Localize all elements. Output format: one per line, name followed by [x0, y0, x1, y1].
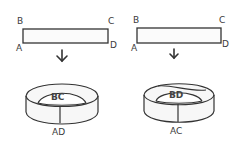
right-label-a: A — [131, 44, 137, 53]
right-label-c: C — [219, 16, 225, 25]
right-ring-outer-label: AC — [170, 127, 182, 136]
right-label-b: B — [133, 16, 139, 25]
left-ring-outer-label: AD — [52, 128, 65, 137]
left-strip — [23, 29, 108, 43]
left-down-arrow-icon — [57, 50, 67, 61]
right-down-arrow-icon — [170, 49, 178, 58]
left-label-a: A — [16, 44, 22, 53]
left-ring-inner-label: BC — [51, 93, 64, 102]
right-ring-inner-label: BD — [169, 91, 183, 100]
left-label-c: C — [108, 17, 114, 26]
left-label-b: B — [17, 17, 23, 26]
left-label-d: D — [110, 41, 117, 50]
right-label-d: D — [222, 40, 229, 49]
left-ring — [26, 84, 98, 124]
right-strip — [137, 28, 221, 43]
diagram-canvas — [0, 0, 240, 149]
